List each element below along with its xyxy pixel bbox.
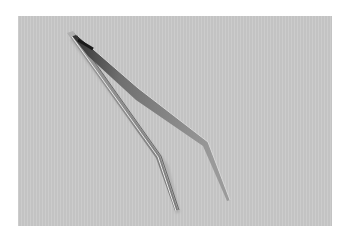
tweezer-right-arm [70,33,230,201]
tweezer-left-arm [68,33,179,211]
tweezers-photo [18,16,332,226]
shadow [72,38,178,213]
tweezers-illustration [18,16,332,226]
